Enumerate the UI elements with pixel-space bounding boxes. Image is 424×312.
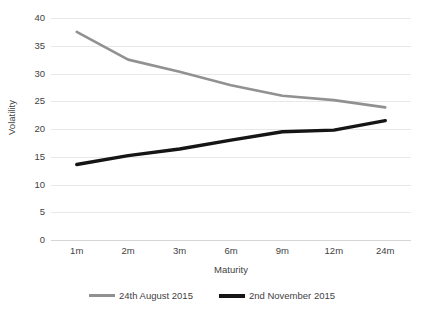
y-axis-title: Volatility (6, 83, 17, 153)
x-tick-label: 2m (102, 246, 153, 260)
legend-item[interactable]: 24th August 2015 (89, 291, 193, 301)
x-tick-label: 6m (205, 246, 256, 260)
x-axis-tick-labels: 1m2m3m6m9m12m24m (51, 246, 411, 260)
y-tick-label: 30 (5, 69, 45, 79)
x-tick-label: 3m (154, 246, 205, 260)
legend-label: 24th August 2015 (119, 291, 193, 301)
chart-legend: 24th August 20152nd November 2015 (0, 291, 424, 301)
y-tick-label: 40 (5, 13, 45, 23)
y-tick-label: 5 (5, 208, 45, 218)
plot-area (51, 18, 411, 240)
series-layer (51, 18, 411, 240)
series-line (77, 121, 386, 165)
y-tick-label: 15 (5, 152, 45, 162)
x-tick-label: 9m (257, 246, 308, 260)
y-tick-label: 0 (5, 235, 45, 245)
legend-swatch-icon (89, 294, 115, 297)
legend-swatch-icon (219, 294, 245, 298)
series-line (77, 32, 386, 107)
x-tick-label: 12m (308, 246, 359, 260)
x-axis-title: Maturity (51, 264, 411, 275)
legend-label: 2nd November 2015 (249, 291, 335, 301)
legend-item[interactable]: 2nd November 2015 (219, 291, 335, 301)
y-tick-label: 35 (5, 41, 45, 51)
grid-line-0 (51, 240, 411, 241)
x-tick-label: 1m (51, 246, 102, 260)
volatility-line-chart: 0510152025303540 Volatility 1m2m3m6m9m12… (0, 0, 424, 312)
x-tick-label: 24m (360, 246, 411, 260)
y-tick-label: 10 (5, 180, 45, 190)
